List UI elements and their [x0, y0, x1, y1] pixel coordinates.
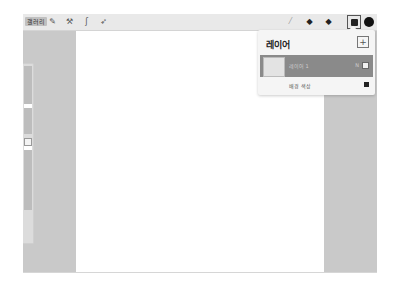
selection-icon[interactable]: ʃ [81, 16, 92, 27]
color-picker-button[interactable] [364, 17, 374, 27]
wrench-icon[interactable]: ✎ [47, 16, 58, 27]
brush-icon[interactable]: ⁄ [285, 16, 296, 27]
brush-size-slider[interactable] [24, 66, 32, 134]
opacity-thumb[interactable] [24, 146, 32, 150]
procreate-screen: 갤러리 ✎ ⚒ ʃ ➶ ⁄ ◆ ◆ 레이어 + 레이어 1 N 배경 색상 [23, 14, 377, 273]
left-sidebar [23, 63, 34, 244]
arrow-icon[interactable]: ➶ [98, 16, 109, 27]
magic-wand-icon[interactable]: ⚒ [64, 16, 75, 27]
background-color-label: 배경 색상 [289, 82, 311, 89]
layers-panel: 레이어 + 레이어 1 N 배경 색상 [258, 30, 375, 95]
layer-visibility-checkbox[interactable] [362, 62, 369, 69]
layer-row[interactable]: 레이어 1 N [260, 55, 373, 77]
add-layer-button[interactable]: + [357, 36, 369, 48]
opacity-slider[interactable] [24, 150, 32, 210]
background-color-swatch[interactable] [364, 82, 369, 87]
smudge-icon[interactable]: ◆ [304, 16, 315, 27]
brush-size-thumb[interactable] [24, 104, 32, 108]
layer-name: 레이어 1 [289, 62, 309, 69]
eraser-icon[interactable]: ◆ [323, 16, 334, 27]
layer-thumbnail [263, 57, 285, 77]
background-color-row[interactable]: 배경 색상 [260, 78, 373, 92]
panel-title: 레이어 [266, 38, 290, 51]
top-toolbar: 갤러리 ✎ ⚒ ʃ ➶ ⁄ ◆ ◆ [23, 14, 377, 31]
modify-button[interactable] [24, 138, 32, 146]
blend-mode-button[interactable]: N [355, 62, 359, 68]
gallery-button[interactable]: 갤러리 [25, 17, 47, 26]
